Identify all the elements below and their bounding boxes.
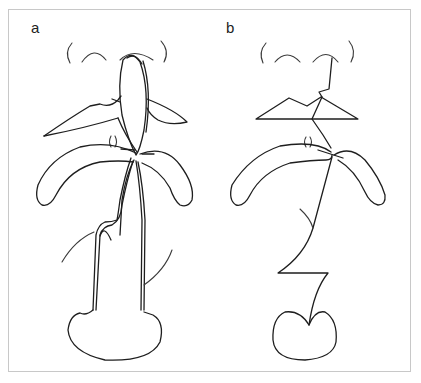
left-arc-icon [82,53,106,62]
diagram-canvas [0,0,421,383]
left-bracket-icon [261,43,266,63]
left-bracket-icon [67,43,72,63]
panel-a-drawing [37,41,193,360]
right-arc-icon [313,55,338,63]
right-bracket-icon [349,41,354,62]
right-bracket-icon [161,41,166,62]
panel-b-drawing [231,41,385,360]
left-arc-icon [275,55,300,62]
